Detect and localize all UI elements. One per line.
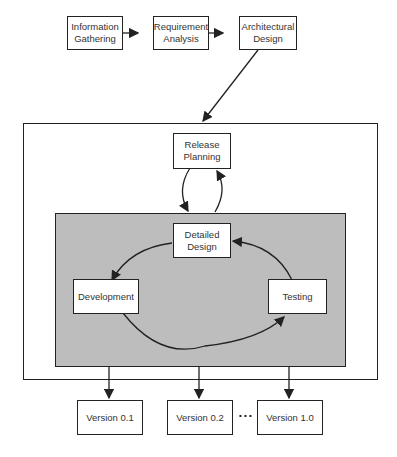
- architectural-design-box: Architectural Design: [239, 16, 297, 50]
- development-box: Development: [73, 279, 139, 314]
- release-planning-box: Release Planning: [173, 133, 231, 169]
- version-1-0-box: Version 1.0: [257, 400, 323, 435]
- version-0-1-box: Version 0.1: [77, 400, 143, 435]
- version-0-2-box: Version 0.2: [167, 400, 233, 435]
- detailed-design-box: Detailed Design: [173, 223, 231, 258]
- ellipsis: • • •: [233, 411, 258, 420]
- requirement-analysis-box: Requirement Analysis: [153, 16, 209, 50]
- testing-box: Testing: [268, 279, 327, 314]
- information-gathering-box: Information Gathering: [67, 16, 123, 50]
